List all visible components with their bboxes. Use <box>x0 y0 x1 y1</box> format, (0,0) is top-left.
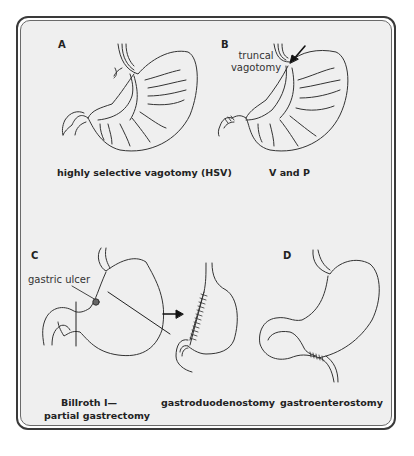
truncal-vagotomy-annotation: truncal vagotomy <box>226 50 286 74</box>
panel-c-letter: C <box>31 250 38 261</box>
panel-a-caption: highly selective vagotomy (HSV) <box>57 167 232 178</box>
panel-a-stomach-illustration <box>62 44 197 151</box>
caption-line-2: partial gastrectomy <box>44 409 134 422</box>
panel-b-caption: V and P <box>269 167 310 178</box>
annotation-line-2: vagotomy <box>226 62 286 74</box>
annotation-line-1: truncal <box>226 50 286 62</box>
panel-b-letter: B <box>221 39 229 50</box>
stomach-surgery-illustrations <box>0 0 414 456</box>
gastric-ulcer-annotation: gastric ulcer <box>28 274 90 286</box>
gastroduodenostomy-caption: gastroduodenostomy <box>161 397 275 408</box>
panel-d-letter: D <box>283 250 291 261</box>
panel-a-letter: A <box>58 39 66 50</box>
panel-c-stomach-illustration <box>43 248 170 356</box>
panel-d-gastroenterostomy-illustration <box>260 250 380 382</box>
gastroduodenostomy-illustration <box>176 263 237 372</box>
panel-d-caption: gastroenterostomy <box>280 397 383 408</box>
caption-line-1: Billroth I— <box>44 396 134 409</box>
panel-c-caption: Billroth I— partial gastrectomy <box>44 396 134 422</box>
